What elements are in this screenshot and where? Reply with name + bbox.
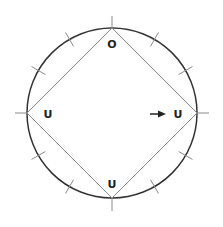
arrow-right-icon <box>150 111 166 118</box>
inscribed-diamond <box>27 28 197 198</box>
label-bottom: U <box>108 178 117 191</box>
tick-11 <box>66 33 74 47</box>
tick-10 <box>32 67 46 75</box>
tick-7 <box>66 180 74 194</box>
circle-diamond-diagram: O U U U <box>0 0 223 227</box>
label-left: U <box>44 108 53 121</box>
tick-8 <box>32 152 46 160</box>
label-right: U <box>174 108 183 121</box>
outer-circle <box>27 28 197 198</box>
label-top: O <box>107 38 116 51</box>
tick-4 <box>179 152 193 160</box>
tick-2 <box>179 67 193 75</box>
tick-1 <box>151 33 159 47</box>
tick-5 <box>151 180 159 194</box>
